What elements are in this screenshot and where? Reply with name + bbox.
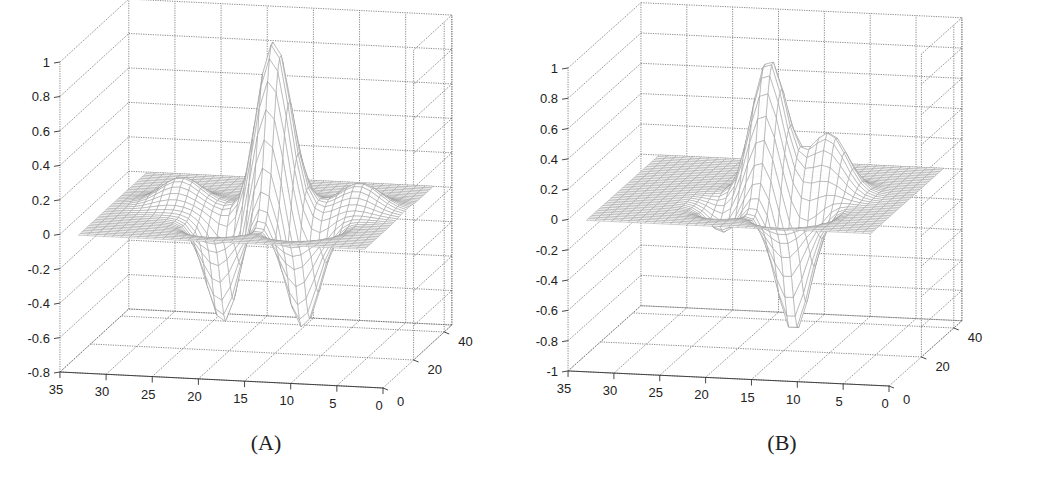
svg-text:15: 15 [233,391,247,406]
svg-text:-1: -1 [546,364,558,379]
svg-text:0: 0 [881,396,888,411]
surface-plot-b-canvas: 10.80.60.40.20-0.2-0.4-0.6-0.8-135302520… [530,0,1063,478]
svg-text:-0.2: -0.2 [536,243,558,258]
svg-text:0.8: 0.8 [32,89,50,104]
svg-text:20: 20 [935,359,949,374]
surface-plot-b: 10.80.60.40.20-0.2-0.4-0.6-0.8-135302520… [530,0,1063,478]
svg-text:0.4: 0.4 [32,158,50,173]
svg-text:35: 35 [557,381,571,396]
svg-text:0.2: 0.2 [540,182,558,197]
caption-a: (A) [251,430,282,456]
svg-text:-0.4: -0.4 [28,296,50,311]
svg-text:5: 5 [836,394,843,409]
x-axis-labels: 35302520151050 [49,372,383,413]
svg-text:15: 15 [740,390,754,405]
svg-text:-0.2: -0.2 [28,262,50,277]
svg-text:-0.6: -0.6 [536,303,558,318]
svg-text:5: 5 [329,396,336,411]
svg-text:30: 30 [603,383,617,398]
svg-text:10: 10 [279,393,293,408]
svg-text:-0.8: -0.8 [28,365,50,380]
surface-plot-a: 10.80.60.40.20-0.2-0.4-0.6-0.83530252015… [0,0,530,478]
y-axis-labels: 02040 [383,332,473,409]
x-axis-labels: 35302520151050 [557,371,889,411]
svg-text:-0.6: -0.6 [28,331,50,346]
svg-text:-0.4: -0.4 [536,273,558,288]
svg-text:10: 10 [786,392,800,407]
svg-text:1: 1 [43,55,50,70]
z-axis-labels: 10.80.60.40.20-0.2-0.4-0.6-0.8-1 [536,61,568,379]
svg-text:0.6: 0.6 [32,124,50,139]
svg-text:30: 30 [95,384,109,399]
svg-text:0: 0 [43,227,50,242]
surface-plot-a-canvas: 10.80.60.40.20-0.2-0.4-0.6-0.83530252015… [0,0,530,478]
svg-text:0: 0 [903,392,910,407]
svg-text:0.8: 0.8 [540,91,558,106]
svg-text:0: 0 [551,212,558,227]
svg-text:0: 0 [375,398,382,413]
svg-text:25: 25 [649,385,663,400]
svg-text:20: 20 [187,389,201,404]
z-axis-labels: 10.80.60.40.20-0.2-0.4-0.6-0.8 [28,55,60,380]
y-axis-labels: 02040 [889,328,982,407]
svg-text:0.4: 0.4 [540,152,558,167]
svg-text:40: 40 [458,334,472,349]
svg-text:40: 40 [968,330,982,345]
svg-text:35: 35 [49,382,63,397]
svg-text:25: 25 [141,387,155,402]
caption-b: (B) [767,430,796,456]
svg-text:20: 20 [428,362,442,377]
svg-text:-0.8: -0.8 [536,334,558,349]
svg-text:0.6: 0.6 [540,122,558,137]
svg-text:0.2: 0.2 [32,193,50,208]
svg-text:1: 1 [551,61,558,76]
svg-text:0: 0 [397,394,404,409]
svg-text:20: 20 [694,387,708,402]
